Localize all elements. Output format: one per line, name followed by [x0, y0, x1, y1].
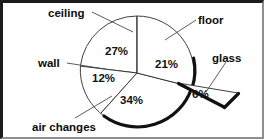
pie-value-wall: 12%	[92, 72, 115, 84]
chart-figure: 27% 21% 12% 34% 6% ceiling floor glass w…	[0, 0, 264, 139]
pie-value-glass: 6%	[192, 88, 209, 100]
pie-value-air-changes: 34%	[120, 94, 143, 106]
pie-label-wall: wall	[37, 57, 60, 69]
pie-value-ceiling: 27%	[105, 45, 128, 57]
pie-value-floor: 21%	[155, 58, 178, 70]
pie-label-floor: floor	[198, 14, 224, 26]
pie-chart: 27% 21% 12% 34% 6% ceiling floor glass w…	[0, 0, 264, 139]
pie-label-glass: glass	[212, 52, 241, 64]
pie-label-ceiling: ceiling	[48, 7, 84, 19]
leader-line-glass	[206, 62, 226, 92]
pie-label-air-changes: air changes	[32, 121, 96, 133]
